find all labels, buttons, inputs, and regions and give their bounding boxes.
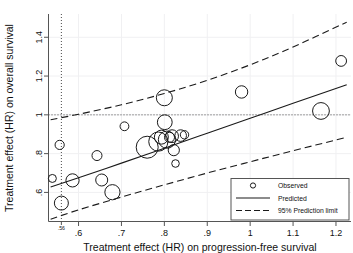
y-tick-label: .8 [34, 150, 44, 158]
y-tick-label: .6 [34, 189, 44, 197]
x-tick-label-threshold: .56 [58, 225, 65, 231]
x-tick-label: 1.1 [287, 228, 300, 238]
y-tick-label: 1.2 [34, 70, 44, 83]
x-tick-label: 1 [248, 228, 253, 238]
x-tick-label: .8 [161, 228, 169, 238]
bubble-plot-figure: .6.811.21.4 .6.7.8.911.11.2.56 Treatment… [0, 0, 353, 253]
x-axis-title: Treatment effect (HR) on progression-fre… [83, 241, 316, 253]
x-tick-label: .6 [75, 228, 83, 238]
legend-label: 95% Prediction limit [278, 207, 338, 214]
legend-label: Observed [278, 182, 308, 189]
x-tick-label: .7 [118, 228, 126, 238]
y-tick-label: 1.4 [34, 31, 44, 44]
meta-regression-chart: .6.811.21.4 .6.7.8.911.11.2.56 Treatment… [0, 0, 353, 253]
chart-legend: ObservedPredicted95% Prediction limit [231, 179, 349, 221]
y-axis-title: Treatment effect (HR) on overall surviva… [3, 24, 15, 212]
x-tick-label: 1.2 [330, 228, 343, 238]
legend-label: Predicted [278, 195, 307, 202]
y-tick-label: 1 [34, 112, 44, 117]
x-tick-label: .9 [204, 228, 212, 238]
